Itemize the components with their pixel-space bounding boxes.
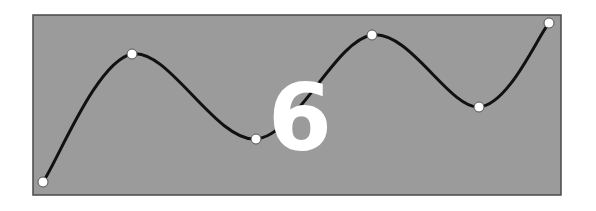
figure-number-label: 6: [268, 65, 332, 172]
control-point: [474, 102, 484, 112]
spline-figure: 6: [0, 0, 596, 211]
spline-canvas: 6: [0, 0, 596, 211]
control-point: [127, 49, 137, 59]
control-point: [251, 134, 261, 144]
control-point: [38, 177, 48, 187]
control-point: [544, 18, 554, 28]
control-point: [367, 30, 377, 40]
